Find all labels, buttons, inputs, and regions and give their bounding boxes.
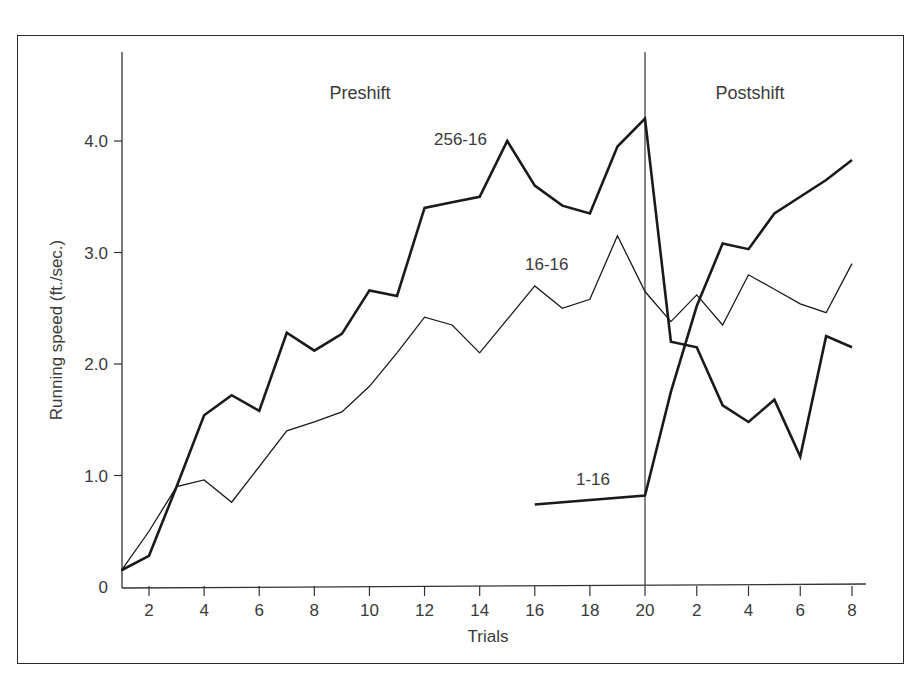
- x-tick-label: 8: [310, 601, 319, 620]
- x-axis-title: Trials: [468, 627, 509, 646]
- x-tick-label: 4: [744, 601, 753, 620]
- x-tick-label: 18: [580, 601, 599, 620]
- y-tick-label: 3.0: [84, 244, 108, 263]
- postshift-label: Postshift: [715, 83, 784, 103]
- x-tick-label: 14: [470, 601, 489, 620]
- x-tick-label: 20: [636, 601, 655, 620]
- x-axis-line: [122, 584, 866, 588]
- x-tick-label: 10: [360, 601, 379, 620]
- x-tick-label: 2: [144, 601, 153, 620]
- x-tick-label: 8: [847, 601, 856, 620]
- x-tick-label: 12: [415, 601, 434, 620]
- x-tick-label: 16: [525, 601, 544, 620]
- x-tick-label: 6: [254, 601, 263, 620]
- preshift-label: Preshift: [329, 83, 390, 103]
- axis-ticks: 01.02.03.04.024681012141618202468: [84, 132, 856, 620]
- line-chart: 01.02.03.04.024681012141618202468 Preshi…: [0, 0, 908, 685]
- series-label-1-16: 1-16: [576, 470, 610, 489]
- y-tick-label: 1.0: [84, 467, 108, 486]
- y-tick-label: 4.0: [84, 132, 108, 151]
- series-label-16-16: 16-16: [525, 255, 568, 274]
- x-tick-label: 6: [796, 601, 805, 620]
- axes: [122, 52, 866, 588]
- series-label-256-16: 256-16: [434, 130, 487, 149]
- series-line-16-16: [121, 236, 852, 571]
- data-lines: [121, 119, 852, 571]
- y-tick-label: 2.0: [84, 355, 108, 374]
- x-tick-label: 2: [692, 601, 701, 620]
- y-tick-label: 0: [99, 578, 108, 597]
- x-tick-label: 4: [199, 601, 208, 620]
- y-axis-title: Running speed (ft./sec.): [47, 240, 66, 420]
